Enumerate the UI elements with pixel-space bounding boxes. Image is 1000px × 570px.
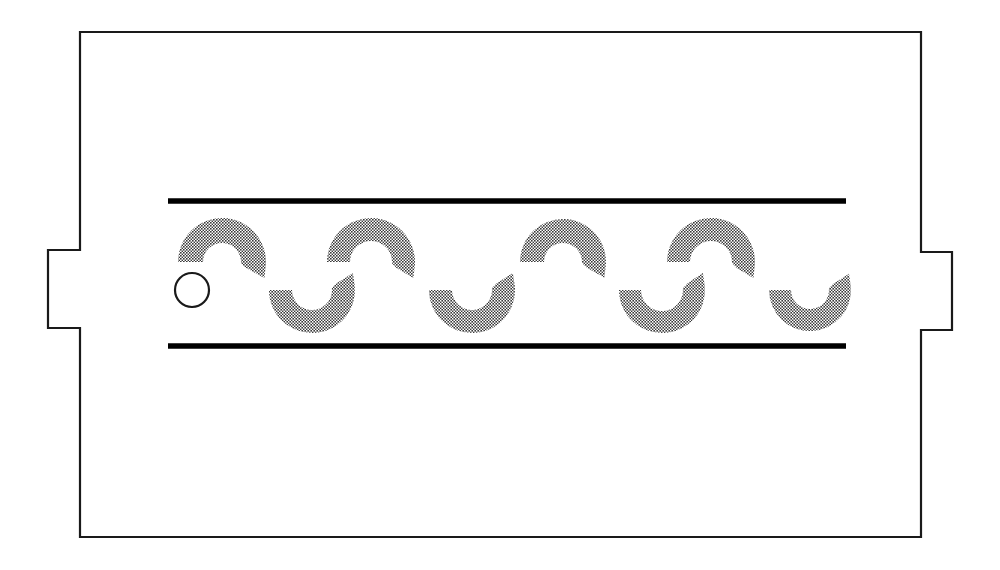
pin-circle [175,273,209,307]
technical-drawing [0,0,1000,570]
figure-canvas [0,0,1000,570]
